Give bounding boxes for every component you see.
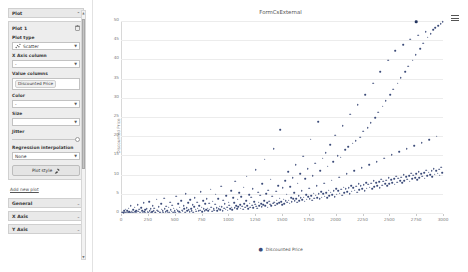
scatter-point[interactable] bbox=[430, 33, 432, 35]
scatter-point[interactable] bbox=[202, 200, 204, 202]
scatter-point[interactable] bbox=[262, 183, 264, 185]
scatter-point[interactable] bbox=[361, 167, 363, 169]
scatter-point[interactable] bbox=[410, 38, 412, 40]
sidebar-scrollbar-thumb[interactable] bbox=[82, 19, 85, 169]
scatter-point[interactable] bbox=[288, 199, 290, 201]
scatter-point[interactable] bbox=[253, 207, 255, 209]
scatter-point[interactable] bbox=[416, 179, 418, 181]
scatter-point[interactable] bbox=[227, 209, 229, 211]
scatter-point[interactable] bbox=[396, 181, 398, 183]
scatter-point[interactable] bbox=[193, 206, 195, 208]
scatter-point[interactable] bbox=[244, 207, 246, 209]
scatter-point[interactable] bbox=[363, 184, 365, 186]
scatter-point[interactable] bbox=[407, 65, 409, 67]
scatter-point[interactable] bbox=[200, 191, 202, 193]
scatter-point[interactable] bbox=[237, 199, 239, 201]
scatter-point[interactable] bbox=[337, 155, 339, 157]
chart-legend[interactable]: ● Discounted Price bbox=[93, 246, 468, 252]
scatter-point[interactable] bbox=[277, 185, 279, 187]
scatter-point[interactable] bbox=[393, 178, 395, 180]
scatter-point[interactable] bbox=[334, 196, 336, 198]
scatter-point[interactable] bbox=[159, 212, 161, 214]
scatter-point[interactable] bbox=[250, 196, 252, 198]
scatter-point[interactable] bbox=[353, 170, 355, 172]
scatter-point[interactable] bbox=[217, 210, 219, 212]
scatter-point[interactable] bbox=[286, 194, 288, 196]
scatter-point[interactable] bbox=[419, 177, 421, 179]
scatter-point[interactable] bbox=[295, 198, 297, 200]
scatter-point[interactable] bbox=[217, 198, 219, 200]
scatter-point[interactable] bbox=[395, 176, 397, 178]
scatter-point[interactable] bbox=[253, 201, 255, 203]
scatter-point[interactable] bbox=[323, 193, 325, 195]
scatter-point[interactable] bbox=[426, 175, 428, 177]
scatter-point[interactable] bbox=[194, 197, 196, 199]
scatter-point[interactable] bbox=[308, 187, 310, 189]
scatter-point[interactable] bbox=[413, 145, 415, 147]
color-select[interactable]: - ▼ bbox=[12, 100, 80, 108]
scatter-point[interactable] bbox=[326, 197, 328, 199]
scatter-point[interactable] bbox=[250, 206, 252, 208]
scatter-point[interactable] bbox=[348, 187, 350, 189]
scatter-point[interactable] bbox=[391, 154, 393, 156]
scatter-point[interactable] bbox=[196, 202, 198, 204]
scatter-point[interactable] bbox=[293, 192, 295, 194]
scatter-point[interactable] bbox=[383, 158, 385, 160]
scatter-point[interactable] bbox=[276, 199, 278, 201]
scatter-point[interactable] bbox=[338, 176, 340, 178]
scatter-point[interactable] bbox=[422, 176, 424, 178]
scatter-point[interactable] bbox=[323, 182, 325, 184]
scatter-point[interactable] bbox=[306, 199, 308, 201]
scatter-point[interactable] bbox=[423, 172, 425, 174]
scatter-point[interactable] bbox=[134, 206, 136, 208]
scatter-point[interactable] bbox=[256, 207, 258, 209]
scatter-point[interactable] bbox=[268, 189, 270, 191]
scatter-point[interactable] bbox=[235, 181, 237, 183]
scatter-point[interactable] bbox=[310, 138, 312, 140]
scatter-point[interactable] bbox=[212, 201, 214, 203]
scatter-point[interactable] bbox=[146, 208, 148, 210]
scatter-point[interactable] bbox=[376, 161, 378, 163]
scatter-point[interactable] bbox=[215, 194, 217, 196]
scatter-point[interactable] bbox=[259, 194, 261, 196]
scatter-point[interactable] bbox=[436, 136, 438, 138]
scatter-point[interactable] bbox=[364, 190, 366, 192]
scatter-point[interactable] bbox=[440, 23, 442, 25]
scatter-point[interactable] bbox=[321, 196, 323, 198]
scatter-point[interactable] bbox=[238, 192, 240, 194]
scatter-point[interactable] bbox=[386, 179, 388, 181]
scatter-point[interactable] bbox=[345, 188, 347, 190]
scatter-point[interactable] bbox=[434, 174, 436, 176]
scatter-point[interactable] bbox=[303, 196, 305, 198]
scatter-point[interactable] bbox=[378, 181, 380, 183]
scatter-point[interactable] bbox=[427, 37, 429, 39]
scatter-point[interactable] bbox=[267, 206, 269, 208]
scatter-point[interactable] bbox=[383, 181, 385, 183]
scatter-point[interactable] bbox=[147, 211, 149, 213]
scatter-point[interactable] bbox=[138, 209, 140, 211]
scatter-point[interactable] bbox=[377, 111, 379, 113]
scatter-point[interactable] bbox=[298, 200, 300, 202]
scatter-point[interactable] bbox=[428, 171, 430, 173]
scatter-point[interactable] bbox=[156, 199, 158, 201]
scatter-point[interactable] bbox=[223, 199, 225, 201]
scatter-point[interactable] bbox=[389, 183, 391, 185]
scatter-point[interactable] bbox=[244, 203, 246, 205]
scatter-point[interactable] bbox=[360, 185, 362, 187]
scatter-point[interactable] bbox=[424, 178, 426, 180]
scatter-point[interactable] bbox=[228, 201, 230, 203]
scatter-point[interactable] bbox=[282, 187, 284, 189]
scatter-point[interactable] bbox=[401, 182, 403, 184]
scatter-point[interactable] bbox=[431, 176, 433, 178]
scatter-plot-canvas[interactable]: 0510152025303540455002505007501000125015… bbox=[121, 22, 443, 214]
scatter-point[interactable] bbox=[206, 198, 208, 200]
scatter-point[interactable] bbox=[422, 42, 424, 44]
scatter-point[interactable] bbox=[265, 193, 267, 195]
scatter-point[interactable] bbox=[356, 186, 358, 188]
scatter-point[interactable] bbox=[416, 173, 418, 175]
scatter-point[interactable] bbox=[344, 149, 346, 151]
scatter-point[interactable] bbox=[357, 104, 359, 106]
scroll-down-arrow-icon[interactable]: ▼ bbox=[82, 255, 85, 259]
scatter-point[interactable] bbox=[279, 197, 281, 199]
scatter-point[interactable] bbox=[245, 200, 247, 202]
